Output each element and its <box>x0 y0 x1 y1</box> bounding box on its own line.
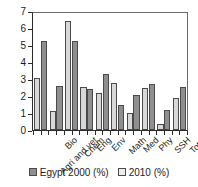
bar-group <box>79 13 94 130</box>
bar-chart-figure: 01234567 Agri and vetBioChemEngEnvMathMe… <box>0 0 198 187</box>
y-axis-tick-mark <box>28 29 32 30</box>
bar-group <box>33 13 48 130</box>
y-axis-tick-mark <box>28 114 32 115</box>
bar-group <box>141 13 156 130</box>
y-axis: 01234567 <box>0 12 32 131</box>
x-axis-category-label: Env <box>110 135 128 153</box>
bar <box>103 74 109 130</box>
y-axis-tick-label: 1 <box>20 108 26 119</box>
legend-item-egypt-2000: Egypt 2000 (%) <box>29 167 109 178</box>
bar <box>41 41 47 130</box>
bar <box>80 87 86 130</box>
chart-legend: Egypt 2000 (%) 2010 (%) <box>0 164 198 180</box>
legend-label-egypt-2000: Egypt 2000 (%) <box>40 167 109 178</box>
y-axis-tick-mark <box>28 63 32 64</box>
bars-layer <box>33 13 187 130</box>
bar <box>142 88 148 130</box>
y-axis-tick-mark <box>28 12 32 13</box>
bar <box>56 86 62 130</box>
y-axis-tick-label: 4 <box>20 57 26 68</box>
x-axis-category-labels: Agri and vetBioChemEngEnvMathMedPhySSHTo… <box>0 131 198 161</box>
bar-group <box>172 13 187 130</box>
bar <box>87 89 93 130</box>
bar <box>96 93 102 130</box>
bar <box>127 113 133 130</box>
bar-group <box>125 13 140 130</box>
bar <box>111 83 117 130</box>
bar-group <box>95 13 110 130</box>
legend-item-2010: 2010 (%) <box>118 167 170 178</box>
y-axis-tick-label: 6 <box>20 23 26 34</box>
y-axis-tick-label: 2 <box>20 91 26 102</box>
legend-label-2010: 2010 (%) <box>129 167 170 178</box>
bar-group <box>156 13 171 130</box>
bar-group <box>64 13 79 130</box>
y-axis-tick-mark <box>28 80 32 81</box>
bar <box>133 95 139 130</box>
bar <box>149 84 155 130</box>
x-axis-category-label: Phy <box>156 135 174 153</box>
bar <box>118 105 124 130</box>
bar-group <box>110 13 125 130</box>
bar <box>157 124 163 130</box>
bar-group <box>48 13 63 130</box>
bar <box>72 41 78 130</box>
legend-swatch-2010 <box>118 168 126 176</box>
bar <box>180 87 186 130</box>
y-axis-tick-label: 3 <box>20 74 26 85</box>
y-axis-tick-label: 7 <box>20 6 26 17</box>
bar <box>173 98 179 130</box>
bar <box>65 21 71 130</box>
y-axis-tick-mark <box>28 97 32 98</box>
bar <box>164 110 170 130</box>
legend-swatch-egypt-2000 <box>29 168 37 176</box>
bar <box>50 111 56 130</box>
y-axis-tick-label: 5 <box>20 40 26 51</box>
y-axis-tick-mark <box>28 46 32 47</box>
bar <box>34 78 40 130</box>
